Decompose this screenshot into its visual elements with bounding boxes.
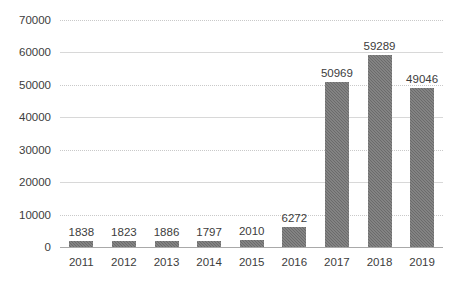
y-axis-tick-label: 20000 bbox=[0, 176, 51, 188]
y-axis-tick-label: 0 bbox=[0, 241, 51, 253]
y-axis-tick-label: 30000 bbox=[0, 144, 51, 156]
gridline-60000 bbox=[60, 52, 443, 53]
y-axis-tick-label: 60000 bbox=[0, 46, 51, 58]
bar-value-label-2018: 59289 bbox=[345, 40, 415, 52]
x-axis-baseline bbox=[60, 247, 443, 248]
bar-2019 bbox=[410, 88, 434, 247]
y-axis-tick-label: 10000 bbox=[0, 209, 51, 221]
y-axis-tick-label: 70000 bbox=[0, 14, 51, 26]
gridline-70000 bbox=[60, 20, 443, 21]
x-axis-tick-label-2019: 2019 bbox=[392, 256, 452, 268]
plot-area: 1838 1823 1886 1797 2010 6272 50969 5928… bbox=[60, 20, 443, 247]
bar-2015 bbox=[240, 240, 264, 247]
bar-2011 bbox=[69, 241, 93, 247]
y-axis-tick-label: 40000 bbox=[0, 111, 51, 123]
bar-value-label-2016: 6272 bbox=[259, 212, 329, 224]
bar-2014 bbox=[197, 241, 221, 247]
bar-2012 bbox=[112, 241, 136, 247]
bar-value-label-2015: 2010 bbox=[217, 225, 287, 237]
bar-value-label-2019: 49046 bbox=[387, 73, 457, 85]
bar-value-label-2017: 50969 bbox=[302, 67, 372, 79]
y-axis-tick-label: 50000 bbox=[0, 79, 51, 91]
bar-chart: 70000 60000 50000 40000 30000 20000 1000… bbox=[0, 0, 459, 281]
bar-2013 bbox=[155, 241, 179, 247]
